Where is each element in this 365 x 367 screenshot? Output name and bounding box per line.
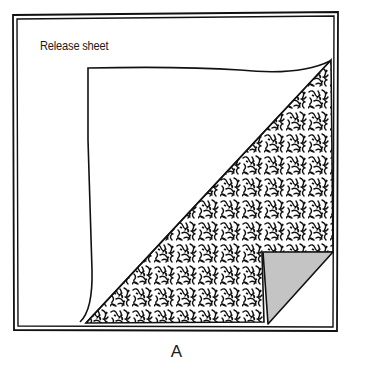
figure-caption: A: [0, 342, 353, 362]
peeled-corner: [263, 252, 333, 324]
release-sheet-diagram: [0, 0, 365, 367]
release-sheet-label: Release sheet: [40, 38, 108, 53]
